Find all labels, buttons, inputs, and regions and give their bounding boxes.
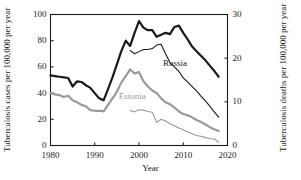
plot-frame <box>51 15 228 146</box>
y-tick-right-10: 10 <box>233 97 257 106</box>
y-tick-left-60: 60 <box>5 62 47 71</box>
x-tick-1980: 1980 <box>34 151 68 160</box>
series-line-estonia-deaths <box>130 110 219 142</box>
x-tick-2020: 2020 <box>211 151 245 160</box>
y-tick-left-20: 20 <box>5 115 47 124</box>
y-tick-left-100: 100 <box>5 10 47 19</box>
y-tick-left-40: 40 <box>5 89 47 98</box>
y-tick-left-80: 80 <box>5 36 47 45</box>
x-tick-2000: 2000 <box>122 151 156 160</box>
y-tick-right-20: 20 <box>233 54 257 63</box>
y-tick-right-30: 30 <box>233 10 257 19</box>
tuberculosis-chart: Tuberculosis cases per 100,000 per year … <box>0 0 301 180</box>
series-label-estonia: Estonia <box>119 92 146 101</box>
x-tick-2010: 2010 <box>166 151 200 160</box>
y-tick-right-0: 0 <box>233 141 257 150</box>
x-tick-1990: 1990 <box>78 151 112 160</box>
series-label-russia: Russia <box>163 59 187 68</box>
y-tick-left-0: 0 <box>5 141 47 150</box>
